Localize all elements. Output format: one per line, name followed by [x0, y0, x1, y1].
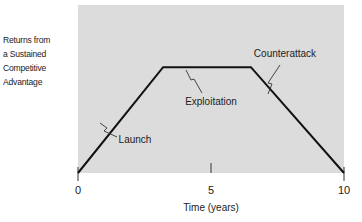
x-axis-label: Time (years): [183, 202, 239, 213]
chart: 0510 LaunchExploitationCounterattack Tim…: [0, 0, 362, 222]
annotation-label: Counterattack: [254, 48, 317, 59]
plot-background: [78, 5, 344, 173]
annotation-label: Exploitation: [185, 96, 237, 107]
annotation-label: Launch: [119, 134, 152, 145]
x-tick-label: 0: [75, 184, 81, 196]
x-tick-label: 5: [208, 184, 214, 196]
x-tick-label: 10: [338, 184, 350, 196]
